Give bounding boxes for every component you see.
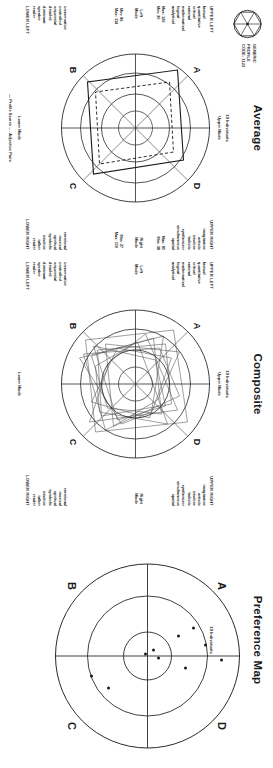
panel-average: GENERIC PROFILE CODE: 1122 Average 10 In… bbox=[0, 0, 273, 256]
word: speaker bbox=[36, 6, 41, 34]
quadrant-letter-d: D bbox=[191, 439, 201, 446]
quadrant-letter-a: A bbox=[215, 582, 227, 590]
page-canvas: GENERIC PROFILE CODE: 1122 Average 10 In… bbox=[0, 0, 273, 768]
word: dominant bbox=[41, 6, 46, 34]
quadrant-header-upper-right: UPPER RIGHT bbox=[208, 476, 213, 506]
data-point bbox=[177, 635, 180, 638]
data-point bbox=[184, 667, 187, 670]
quadrant-header-upper-right: UPPER RIGHT bbox=[208, 220, 213, 250]
quadrant-words-upper-left-composite: UPPER LEFT factual quantitative critical… bbox=[170, 262, 213, 289]
word: factual bbox=[201, 6, 206, 33]
word: imaginative bbox=[201, 476, 206, 506]
quadrant-letter-d: D bbox=[215, 722, 227, 730]
word: reader bbox=[31, 6, 36, 34]
quadrant-words-upper-right-average: UPPER RIGHT imaginative artistic intuiti… bbox=[170, 220, 213, 250]
quadrant-words-lower-right-average: emotional musical spiritual symbolic int… bbox=[22, 219, 67, 250]
word: detailed bbox=[46, 6, 51, 34]
word: intuitive bbox=[191, 220, 196, 250]
quadrant-letter-b: B bbox=[67, 67, 77, 74]
word: artistic bbox=[196, 220, 201, 250]
word: musical bbox=[57, 475, 62, 506]
mode-label-lower-composite: Lower Mode bbox=[16, 256, 21, 512]
document-page: GENERIC PROFILE CODE: 1122 Average 10 In… bbox=[0, 0, 273, 768]
word: controlled bbox=[57, 6, 62, 34]
word: spiritual bbox=[52, 475, 57, 506]
series-individual bbox=[93, 346, 165, 420]
panel-title-composite: Composite bbox=[251, 256, 263, 512]
mode-values-left-average: Min: 96 Max: 114 bbox=[113, 8, 123, 24]
chart-legend-average: — Profile Scores -- - Adjective Pairs bbox=[7, 0, 12, 256]
word: quantitative bbox=[196, 6, 201, 33]
panel-count-average: 10 Individuals bbox=[224, 0, 229, 256]
min-value: Min: 96 bbox=[118, 8, 123, 24]
word: holistic bbox=[185, 220, 190, 250]
word: symbolic bbox=[46, 475, 51, 506]
max-value: Max: 114 bbox=[113, 8, 118, 24]
quadrant-header-lower-right: LOWER RIGHT bbox=[24, 475, 29, 506]
word: intuitive bbox=[41, 219, 46, 250]
max-value: Max: 85 bbox=[160, 236, 165, 250]
word: analytical bbox=[170, 6, 175, 33]
word: talker bbox=[36, 219, 41, 250]
word: speaker bbox=[36, 262, 41, 290]
quadrant-words-upper-left-average: UPPER LEFT factual quantitative critical… bbox=[170, 6, 213, 33]
data-point bbox=[192, 627, 195, 630]
word: dominant bbox=[41, 262, 46, 290]
word: factual bbox=[201, 262, 206, 289]
quadrant-letter-c: C bbox=[67, 183, 77, 190]
data-point bbox=[152, 649, 155, 652]
word: emotional bbox=[62, 475, 67, 506]
quadrant-letter-b: B bbox=[67, 323, 77, 330]
quadrant-words-lower-left-average: conservative controlled sequential detai… bbox=[22, 6, 67, 34]
panel-count-composite: 10 Individuals bbox=[224, 256, 229, 512]
quadrant-letter-b: B bbox=[65, 582, 77, 590]
mode-label-right-average: Right Mode bbox=[133, 237, 143, 248]
series-individual bbox=[85, 330, 187, 432]
max-value: Max: 126 bbox=[160, 6, 165, 22]
word: reader bbox=[31, 475, 36, 506]
min-value: Min: 38 bbox=[155, 236, 160, 250]
panel-title-average: Average bbox=[251, 0, 263, 256]
word: critical bbox=[191, 6, 196, 33]
word: logical bbox=[175, 6, 180, 33]
word: mathematical bbox=[180, 262, 185, 289]
data-point bbox=[157, 657, 160, 660]
quadrant-values-upper-left-average: Max: 126 Min: 30 bbox=[155, 6, 165, 22]
word: reader bbox=[31, 219, 36, 250]
panel-composite: Composite 10 Individuals UPPER LEFT fact… bbox=[0, 256, 273, 512]
quadrant-header-upper-left: UPPER LEFT bbox=[208, 262, 213, 289]
mode-values-right-average: Min: 27 Max: 110 bbox=[113, 232, 123, 248]
report-code-line2: CODE: 1122 bbox=[239, 44, 245, 80]
word: conservative bbox=[62, 6, 67, 34]
mode-label-left-average: Left Mode bbox=[133, 8, 143, 19]
word: controlled bbox=[57, 262, 62, 290]
scatter-chart-preference-map: A D B C bbox=[44, 556, 249, 756]
word: intuitive bbox=[41, 475, 46, 506]
data-point bbox=[107, 687, 110, 690]
quadrant-letter-a: A bbox=[191, 67, 201, 74]
quadrant-header-upper-left: UPPER LEFT bbox=[208, 6, 213, 33]
word: imaginative bbox=[201, 220, 206, 250]
quadrant-letter-c: C bbox=[65, 722, 77, 730]
quadrant-header-lower-left: LOWER LEFT bbox=[24, 6, 29, 34]
word: simultaneous bbox=[175, 476, 180, 506]
word: sequential bbox=[52, 262, 57, 290]
word: intuitive bbox=[191, 476, 196, 506]
radar-chart-average: A D B C bbox=[52, 48, 217, 208]
data-point bbox=[204, 644, 207, 647]
min-value: Min: 27 bbox=[118, 232, 123, 248]
word: synthesizer bbox=[180, 220, 185, 250]
word: artistic bbox=[196, 476, 201, 506]
quadrant-letter-c: C bbox=[67, 439, 77, 446]
quadrant-values-upper-right-average: Max: 85 Min: 38 bbox=[155, 236, 165, 250]
word: sequential bbox=[52, 6, 57, 34]
word: analytical bbox=[170, 262, 175, 289]
word: holistic bbox=[185, 476, 190, 506]
panel-preference-map: Preference Map 10 Individuals bbox=[0, 512, 273, 768]
word: symbolic bbox=[46, 219, 51, 250]
mode-label-right-composite: Right Mode bbox=[133, 493, 143, 504]
word: detailed bbox=[46, 262, 51, 290]
word: mathematical bbox=[180, 6, 185, 33]
word: spatial bbox=[170, 476, 175, 506]
series-overlay-group bbox=[79, 330, 187, 432]
